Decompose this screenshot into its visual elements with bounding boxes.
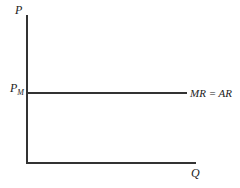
price-level-label: PM: [10, 82, 24, 99]
y-axis: [26, 15, 28, 164]
x-axis: [26, 162, 196, 164]
curve-label: MR = AR: [190, 87, 232, 99]
mr-ar-line: [27, 92, 187, 94]
price-level-subscript: M: [17, 88, 24, 97]
y-axis-label: P: [15, 4, 22, 16]
x-axis-label: Q: [191, 167, 200, 179]
